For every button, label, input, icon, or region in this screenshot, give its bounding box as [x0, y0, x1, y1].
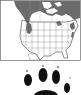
toe-pad	[24, 74, 32, 86]
range-map	[0, 0, 81, 61]
paw-print-icon	[20, 64, 80, 95]
heel-pad	[34, 90, 58, 95]
toe-pad	[64, 83, 70, 93]
toe-pad	[52, 70, 60, 84]
toe-pad	[39, 68, 48, 82]
